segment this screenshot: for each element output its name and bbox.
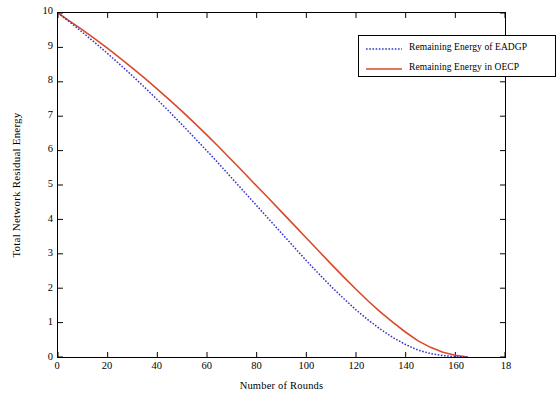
x-tick-label: 40: [142, 360, 172, 371]
x-tick-label: 20: [92, 360, 122, 371]
x-tick-label: 80: [242, 360, 272, 371]
x-tick-label: 18: [491, 360, 521, 371]
y-tick-label: 6: [29, 143, 53, 154]
legend-item-oecp: Remaining Energy in OECP: [359, 56, 555, 77]
y-tick-label: 3: [29, 247, 53, 258]
legend: Remaining Energy of EADGP Remaining Ener…: [358, 35, 556, 77]
plot-area: Remaining Energy of EADGP Remaining Ener…: [57, 12, 506, 358]
x-tick-label: 60: [192, 360, 222, 371]
y-tick-label: 2: [29, 282, 53, 293]
x-axis-label: Number of Rounds: [57, 380, 506, 391]
x-tick-label: 140: [391, 360, 421, 371]
y-axis-ticks: 012345678910: [25, 12, 53, 358]
y-tick-label: 4: [29, 213, 53, 224]
y-tick-label: 1: [29, 316, 53, 327]
y-axis-label: Total Network Residual Energy: [10, 12, 24, 358]
y-tick-label: 5: [29, 178, 53, 189]
x-tick-label: 160: [441, 360, 471, 371]
legend-swatch-oecp: [365, 61, 403, 73]
x-axis-ticks: 02040608010012014016018: [57, 360, 506, 376]
legend-item-eadgp: Remaining Energy of EADGP: [359, 36, 555, 57]
legend-label-oecp: Remaining Energy in OECP: [409, 62, 519, 72]
y-tick-label: 7: [29, 109, 53, 120]
y-tick-label: 8: [29, 74, 53, 85]
legend-swatch-eadgp: [365, 41, 403, 53]
y-tick-label: 10: [29, 5, 53, 16]
x-tick-label: 100: [291, 360, 321, 371]
x-tick-label: 0: [42, 360, 72, 371]
x-tick-label: 120: [341, 360, 371, 371]
legend-label-eadgp: Remaining Energy of EADGP: [409, 42, 527, 52]
y-tick-label: 9: [29, 40, 53, 51]
